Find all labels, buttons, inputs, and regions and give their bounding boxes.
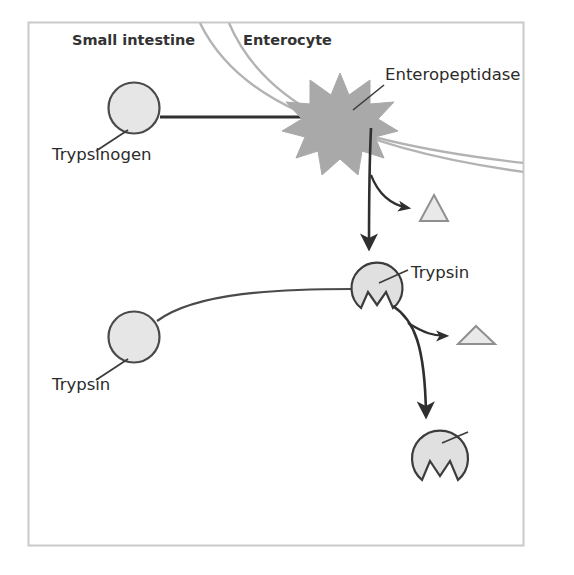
trypsinogen-activation-diagram: Small intestine Enterocyte Enteropeptida… xyxy=(0,0,574,575)
diagram-figure: Small intestine Enterocyte Enteropeptida… xyxy=(0,0,574,575)
trypsin-bottom-shape xyxy=(412,431,468,480)
trypsin-middle-shape xyxy=(352,263,403,308)
label-enteropeptidase: Enteropeptidase xyxy=(385,65,521,84)
label-trypsinogen-bottom: Trypsin xyxy=(51,375,110,394)
region-label-enterocyte: Enterocyte xyxy=(243,32,332,48)
label-trypsinogen-top: Trypsinogen xyxy=(51,145,152,164)
trypsinogen-top-shape xyxy=(109,83,160,134)
label-trypsin-middle: Trypsin xyxy=(410,263,469,282)
region-label-small-intestine: Small intestine xyxy=(72,32,195,48)
trypsinogen-bottom-shape xyxy=(109,312,160,363)
